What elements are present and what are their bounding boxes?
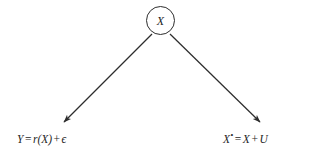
equation-measurement: X•=X+U — [223, 134, 268, 146]
equation-measurement-equals: = — [233, 133, 243, 145]
diagram-canvas: X Y=r(X)+ϵ X•=X+U — [0, 0, 319, 156]
equation-measurement-plus: + — [250, 133, 260, 145]
equation-measurement-term1: X — [243, 133, 250, 145]
equation-outcome-plus: + — [52, 133, 62, 145]
edge-to-outcome — [64, 34, 152, 122]
equation-measurement-lhs: X — [223, 133, 230, 145]
equation-outcome: Y=r(X)+ϵ — [17, 134, 66, 146]
edge-to-measurement — [170, 34, 260, 122]
node-x: X — [146, 6, 175, 35]
equation-outcome-epsilon: ϵ — [62, 133, 67, 145]
node-x-label: X — [157, 14, 165, 26]
equation-measurement-term2: U — [259, 133, 267, 145]
equation-outcome-equals: = — [23, 133, 33, 145]
